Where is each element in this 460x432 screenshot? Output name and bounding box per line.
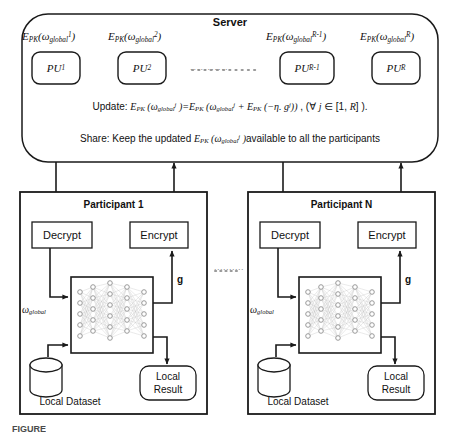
update-expression: EPK (ωglobalj )=EPK (ωglobalj + EPK (−η.… (130, 101, 297, 112)
cipher-sub: PK (273, 36, 282, 44)
pn-result-label[interactable]: Local Result (368, 370, 424, 396)
omega-sup: 1 (68, 31, 72, 39)
server-share-line: Share: Keep the updated EPK (ωglobalj )a… (0, 133, 460, 144)
p1-decrypt-label[interactable]: Decrypt (32, 222, 92, 248)
cipher-label-2: EPK(ωglobal2) (108, 30, 161, 44)
weights-sub: global (257, 308, 274, 315)
pu-label-1[interactable]: PU1 (32, 52, 80, 84)
cipher-base: E (360, 30, 367, 42)
update-prefix: Update: (92, 101, 130, 112)
p1-result-label[interactable]: Local Result (140, 370, 196, 396)
omega-sup: 2 (154, 31, 158, 39)
cipher-base: E (108, 30, 115, 42)
pu-base: PU (294, 62, 309, 74)
omega-sub: global (387, 36, 406, 44)
figure-caption: FIGURE (12, 424, 46, 432)
result-line-2: Result (154, 384, 182, 395)
cipher-label-1: EPK(ωglobal1) (22, 30, 75, 44)
pu-sub: 1 (62, 64, 66, 72)
pn-dataset-cylinder (258, 358, 290, 397)
pn-encrypt-label[interactable]: Encrypt (358, 222, 416, 248)
server-update-equation: Update: EPK (ωglobalj )=EPK (ωglobalj + … (0, 101, 460, 112)
pn-gradient-label: g (405, 274, 411, 285)
omega-sup: R (406, 31, 410, 39)
weights-base: ω (250, 304, 257, 315)
pu-base: PU (47, 62, 62, 74)
cipher-sub: PK (115, 36, 124, 44)
pu-sub: R (401, 64, 405, 72)
p1-weights-label: ωglobal (22, 304, 46, 315)
p1-gradient-label: g (177, 274, 183, 285)
omega-sub: global (293, 36, 312, 44)
pn-decrypt-label[interactable]: Decrypt (260, 222, 320, 248)
pu-label-2[interactable]: PU2 (118, 52, 166, 84)
cipher-base: E (22, 30, 29, 42)
p1-dataset-cylinder (30, 358, 62, 397)
result-line-2: Result (382, 384, 410, 395)
cipher-base: E (266, 30, 273, 42)
pu-base: PU (133, 62, 148, 74)
result-line-1: Local (156, 371, 180, 382)
cipher-sub: PK (29, 36, 38, 44)
weights-sub: global (29, 308, 46, 315)
omega-sub: global (135, 36, 154, 44)
omega-sup: R-1 (312, 31, 322, 39)
omega-sub: global (49, 36, 68, 44)
cipher-label-3: EPK(ωglobalR-1) (266, 30, 326, 44)
pn-weights-label: ωglobal (250, 304, 274, 315)
share-prefix: Share: Keep the updated (80, 133, 194, 144)
result-line-1: Local (384, 371, 408, 382)
pn-dataset-label: Local Dataset (248, 396, 348, 407)
update-quantifier: , (∀ j ∈ [1, R] ). (298, 101, 368, 112)
p1-dataset-label: Local Dataset (20, 396, 120, 407)
diagram-canvas: Server EPK(ωglobal1) EPK(ωglobal2) EPK(ω… (0, 0, 460, 432)
weights-base: ω (22, 304, 29, 315)
server-title: Server (0, 16, 460, 28)
pu-label-4[interactable]: PUR (372, 52, 420, 84)
participant-n-title: Participant N (248, 199, 435, 210)
pu-base: PU (386, 62, 401, 74)
participant-1-title: Participant 1 (20, 199, 207, 210)
participants-ellipsis: .......... (214, 262, 244, 272)
pu-ellipsis: ............ (190, 62, 232, 72)
share-expression: EPK (ωglobalj ) (194, 133, 246, 144)
pu-sub: R-1 (309, 64, 319, 72)
cipher-label-4: EPK(ωglobalR) (360, 30, 414, 44)
cipher-sub: PK (367, 36, 376, 44)
p1-encrypt-label[interactable]: Encrypt (130, 222, 188, 248)
share-suffix: available to all the participants (246, 133, 380, 144)
pu-label-3[interactable]: PUR-1 (280, 52, 334, 84)
pu-sub: 2 (148, 64, 152, 72)
